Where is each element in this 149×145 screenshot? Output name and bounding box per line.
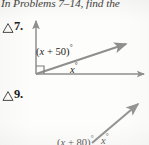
problem-number-9: 9. [2,88,23,101]
angle-label-x-7: x° [70,60,78,75]
triangle-outline-icon [2,90,13,101]
problem-number-7: 7. [2,20,23,33]
angle-label-x-plus-80: (x + 80)° [57,133,94,145]
triangle-outline-icon [2,22,13,33]
problem-number-7-text: 7. [14,20,23,33]
problem-number-9-text: 9. [14,88,23,101]
angle-label-x-plus-50: (x + 50)° [36,42,73,57]
textbook-page-fragment: In Problems 7–14, find the 7. [0,0,149,145]
problem-set-instruction: In Problems 7–14, find the [1,0,149,10]
angle-label-x-9: x° [101,131,109,145]
